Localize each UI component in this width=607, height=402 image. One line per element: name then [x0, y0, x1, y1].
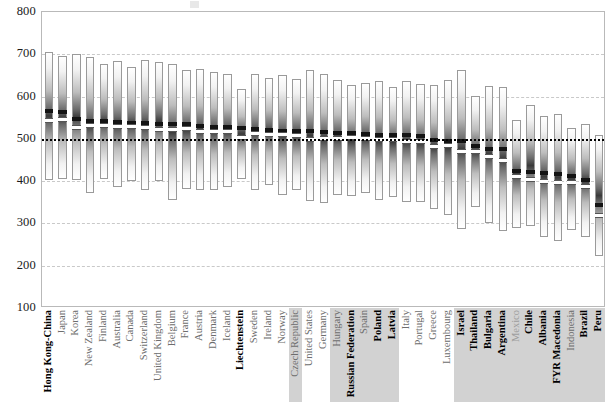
- x-tick-label: Germany: [318, 310, 329, 349]
- x-label-column: Spain: [357, 308, 371, 402]
- x-label-column: Switzerland: [137, 308, 151, 402]
- mean-marker: [58, 110, 67, 114]
- mean-marker: [333, 131, 342, 135]
- percentile-bar: [554, 114, 563, 241]
- chart-container: 100200300400500600700800 Hong Kong-China…: [0, 0, 607, 402]
- confidence-band: [595, 213, 604, 218]
- x-label-column: Canada: [124, 308, 138, 402]
- x-label-column: Hong Kong-China: [41, 308, 55, 402]
- mean-marker: [567, 174, 576, 178]
- x-tick-label: Canada: [125, 310, 136, 342]
- confidence-band: [155, 127, 164, 132]
- x-tick-label: Israel: [455, 310, 466, 336]
- x-label-column: Brazil: [577, 308, 591, 402]
- confidence-band: [265, 132, 274, 137]
- x-label-column: Thailand: [467, 308, 481, 402]
- confidence-band: [141, 125, 150, 130]
- mean-marker: [416, 134, 425, 138]
- mean-marker: [512, 169, 521, 173]
- x-tick-label: Australia: [111, 310, 122, 349]
- percentile-bar: [540, 116, 549, 237]
- x-tick-label: Sweden: [249, 310, 260, 343]
- x-label-column: Greece: [426, 308, 440, 402]
- confidence-band: [512, 174, 521, 179]
- x-tick-label: Hong Kong-China: [43, 310, 54, 393]
- confidence-band: [471, 149, 480, 154]
- mean-marker: [196, 124, 205, 128]
- confidence-band: [45, 118, 54, 123]
- confidence-band: [526, 177, 535, 182]
- mean-marker: [554, 172, 563, 176]
- confidence-band: [196, 129, 205, 134]
- bar-series: [42, 12, 604, 306]
- x-tick-label: Luxembourg: [442, 310, 453, 364]
- x-tick-label: Latvia: [387, 310, 398, 339]
- cropped-title-artifact: [190, 1, 199, 8]
- x-axis-labels: Hong Kong-ChinaJapanKoreaNew ZealandFinl…: [41, 308, 605, 402]
- x-tick-label: France: [180, 310, 191, 339]
- mean-marker: [320, 130, 329, 134]
- x-tick-label: Thailand: [469, 310, 480, 351]
- x-label-column: Portugal: [412, 308, 426, 402]
- x-label-column: Poland: [371, 308, 385, 402]
- x-label-column: Mexico: [509, 308, 523, 402]
- confidence-band: [113, 124, 122, 129]
- confidence-band: [292, 133, 301, 138]
- confidence-band: [430, 144, 439, 149]
- confidence-band: [58, 117, 67, 122]
- y-tick-label: 400: [2, 174, 36, 187]
- x-tick-label: New Zealand: [84, 310, 95, 366]
- x-label-column: Albania: [536, 308, 550, 402]
- x-tick-label: Ireland: [263, 310, 274, 340]
- y-tick-label: 100: [2, 301, 36, 314]
- mean-marker: [402, 133, 411, 137]
- x-tick-label: Austria: [194, 310, 205, 341]
- y-tick-label: 600: [2, 89, 36, 102]
- confidence-band: [278, 132, 287, 137]
- x-label-column: Argentina: [495, 308, 509, 402]
- confidence-band: [540, 179, 549, 184]
- x-tick-label: Finland: [98, 310, 109, 342]
- x-tick-label: Japan: [56, 310, 67, 334]
- mean-marker: [526, 170, 535, 174]
- x-label-column: Russian Federation: [344, 308, 358, 402]
- x-tick-label: FYR Macedonia: [552, 310, 563, 384]
- x-label-column: Liechtenstein: [234, 308, 248, 402]
- percentile-bar: [595, 135, 604, 256]
- x-tick-label: Bulgaria: [483, 310, 494, 349]
- x-label-column: Israel: [454, 308, 468, 402]
- x-tick-label: Chile: [524, 310, 535, 334]
- x-tick-label: Spain: [359, 310, 370, 334]
- x-tick-label: Mexico: [510, 310, 521, 342]
- x-tick-label: Norway: [276, 310, 287, 344]
- reference-line-500: [42, 139, 604, 141]
- x-tick-label: Poland: [373, 310, 384, 342]
- x-label-column: Luxembourg: [440, 308, 454, 402]
- mean-marker: [595, 203, 604, 207]
- mean-marker: [155, 122, 164, 126]
- y-tick-label: 300: [2, 216, 36, 229]
- x-tick-label: Italy: [400, 310, 411, 329]
- percentile-bar: [168, 64, 177, 200]
- x-tick-label: Indonesia: [565, 310, 576, 351]
- confidence-band: [444, 143, 453, 148]
- confidence-band: [499, 158, 508, 163]
- percentile-bar: [389, 87, 398, 197]
- x-label-column: Indonesia: [564, 308, 578, 402]
- x-label-column: United States: [302, 308, 316, 402]
- x-tick-label: United Kingdom: [153, 310, 164, 381]
- confidence-band: [567, 180, 576, 185]
- mean-marker: [499, 147, 508, 151]
- mean-marker: [237, 126, 246, 130]
- confidence-band: [86, 123, 95, 128]
- x-tick-label: Denmark: [208, 310, 219, 349]
- confidence-band: [168, 127, 177, 132]
- confidence-band: [127, 124, 136, 129]
- x-tick-label: Greece: [428, 310, 439, 340]
- x-tick-label: Czech Republic: [290, 310, 301, 377]
- percentile-bar: [306, 70, 315, 200]
- x-label-column: Czech Republic: [289, 308, 303, 402]
- confidence-band: [554, 180, 563, 185]
- x-tick-label: Peru: [593, 310, 604, 332]
- percentile-bar: [45, 52, 54, 180]
